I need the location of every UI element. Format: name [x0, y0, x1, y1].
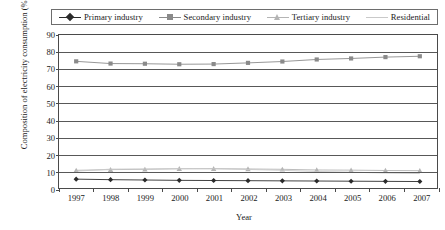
gridline: [59, 121, 437, 122]
chart-legend: Primary industrySecondary industryTertia…: [51, 9, 438, 25]
data-point: [383, 55, 387, 59]
x-tick-mark: [93, 188, 94, 192]
data-point: [74, 177, 79, 182]
legend-label: Secondary industry: [184, 12, 252, 22]
legend-item-primary-industry[interactable]: Primary industry: [59, 12, 143, 22]
x-tick-label: 2003: [275, 193, 292, 203]
x-tick-mark: [335, 188, 336, 192]
x-tick-label: 2006: [379, 193, 396, 203]
series-layer: [59, 35, 437, 188]
y-tick-label: 0: [51, 185, 55, 195]
series-secondary-industry: [74, 54, 422, 66]
y-tick-mark: [56, 86, 59, 87]
x-tick-label: 2004: [309, 193, 326, 203]
legend-marker-square-icon: [159, 13, 181, 22]
x-tick-label: 1998: [102, 193, 119, 203]
chart-figure: Primary industrySecondary industryTertia…: [0, 0, 445, 230]
x-tick-mark: [266, 188, 267, 192]
data-point: [212, 62, 216, 66]
legend-item-residential[interactable]: Residential: [366, 12, 430, 22]
data-point: [211, 178, 216, 183]
y-tick-mark: [56, 69, 59, 70]
x-tick-mark: [197, 188, 198, 192]
x-tick-mark: [128, 188, 129, 192]
legend-label: Tertiary industry: [292, 12, 350, 22]
gridline: [59, 155, 437, 156]
data-point: [418, 54, 422, 58]
y-tick-mark: [56, 52, 59, 53]
gridline: [59, 69, 437, 70]
gridline: [59, 138, 437, 139]
x-tick-mark: [404, 188, 405, 192]
data-point: [417, 179, 422, 184]
y-tick-mark: [56, 103, 59, 104]
y-tick-mark: [56, 35, 59, 36]
y-tick-label: 20: [46, 151, 55, 161]
x-tick-mark: [300, 188, 301, 192]
x-tick-label: 2001: [206, 193, 223, 203]
data-point: [74, 59, 78, 63]
data-point: [280, 59, 284, 63]
data-point: [349, 179, 354, 184]
y-tick-label: 40: [46, 116, 55, 126]
legend-marker-triangle-icon: [267, 13, 289, 22]
y-tick-mark: [56, 138, 59, 139]
plot-area: 0102030405060708090199719981999200020012…: [58, 34, 438, 189]
y-tick-label: 50: [46, 99, 55, 109]
x-tick-label: 2002: [240, 193, 257, 203]
data-point: [108, 177, 113, 182]
data-point: [245, 178, 250, 183]
x-tick-label: 1997: [68, 193, 85, 203]
gridline: [59, 172, 437, 173]
series-primary-industry: [74, 177, 423, 185]
legend-item-secondary-industry[interactable]: Secondary industry: [159, 12, 252, 22]
y-tick-label: 10: [46, 168, 55, 178]
data-point: [383, 179, 388, 184]
x-axis-title: Year: [50, 212, 438, 222]
legend-marker-diamond-icon: [59, 13, 81, 22]
data-point: [177, 178, 182, 183]
data-point: [177, 62, 181, 66]
data-point: [280, 178, 285, 183]
gridline: [59, 86, 437, 87]
y-tick-mark: [56, 121, 59, 122]
x-tick-mark: [162, 188, 163, 192]
gridline: [59, 103, 437, 104]
x-tick-label: 2000: [171, 193, 188, 203]
x-tick-label: 2007: [413, 193, 430, 203]
legend-label: Residential: [391, 12, 430, 22]
y-tick-mark: [56, 155, 59, 156]
data-point: [314, 178, 319, 183]
x-tick-label: 2005: [344, 193, 361, 203]
y-axis-title: Composition of electricity consumption (…: [19, 0, 30, 153]
data-point: [246, 61, 250, 65]
y-tick-label: 80: [46, 47, 55, 57]
data-point: [142, 177, 147, 182]
legend-item-tertiary-industry[interactable]: Tertiary industry: [267, 12, 350, 22]
data-point: [143, 62, 147, 66]
x-tick-mark: [231, 188, 232, 192]
y-tick-mark: [56, 172, 59, 173]
x-tick-mark: [59, 188, 60, 192]
x-tick-mark: [439, 188, 440, 192]
legend-marker-none-icon: [366, 13, 388, 22]
y-tick-label: 60: [46, 82, 55, 92]
x-tick-label: 1999: [137, 193, 154, 203]
gridline: [59, 52, 437, 53]
y-tick-label: 70: [46, 64, 55, 74]
y-tick-label: 90: [46, 30, 55, 40]
data-point: [108, 61, 112, 65]
x-tick-mark: [369, 188, 370, 192]
data-point: [315, 57, 319, 61]
legend-label: Primary industry: [84, 12, 143, 22]
y-tick-label: 30: [46, 133, 55, 143]
data-point: [349, 56, 353, 60]
